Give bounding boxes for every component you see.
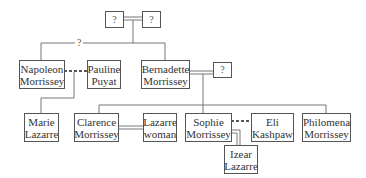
node-izear-lazarre: Izear Lazarre [224, 145, 258, 174]
marriage-line-sophie-izear [231, 130, 240, 145]
node-first-name: Eli [266, 116, 279, 128]
node-last-name: woman [144, 128, 176, 140]
node-clarence-morrissey: Clarence Morrissey [74, 113, 119, 142]
connector-lines [0, 0, 366, 178]
node-last-name: Puyat [91, 75, 116, 87]
node-first-name: Clarence [77, 116, 116, 128]
marriage-line-bernadette [189, 71, 213, 74]
node-sophie-morrissey: Sophie Morrissey [185, 113, 232, 142]
node-last-name: Morrissey [74, 128, 119, 140]
node-last-name: Kashpaw [252, 128, 293, 140]
node-last-name: Lazarre [224, 160, 258, 172]
marriage-line-clarence [118, 126, 143, 129]
family-tree-diagram: ? ? ? Napoleon Morrissey Pauline Puyat B… [0, 0, 366, 178]
node-last-name: Morrissey [304, 128, 349, 140]
node-first-name: Bernadette [142, 63, 190, 75]
node-first-name: Sophie [193, 116, 224, 128]
node-eli-kashpaw: Eli Kashpaw [251, 113, 294, 142]
node-label: ? [220, 64, 224, 76]
node-bernadette-morrissey: Bernadette Morrissey [141, 60, 190, 89]
node-napoleon-morrissey: Napoleon Morrissey [19, 60, 65, 89]
node-first-name: Izear [230, 148, 252, 160]
node-last-name: Morrissey [186, 128, 231, 140]
node-unknown-grandparent-2: ? [142, 11, 161, 28]
uncertain-sibling-label: ? [75, 38, 83, 48]
node-first-name: Napoleon [21, 63, 64, 75]
node-first-name: Lazarre [143, 116, 177, 128]
node-label: ? [149, 14, 153, 26]
node-last-name: Lazarre [25, 128, 59, 140]
node-first-name: Philomena [303, 116, 350, 128]
node-last-name: Morrissey [20, 75, 65, 87]
node-last-name: Morrissey [143, 75, 188, 87]
node-philomena-morrissey: Philomena Morrissey [302, 113, 351, 142]
node-unknown-grandparent-1: ? [105, 11, 124, 28]
node-marie-lazarre: Marie Lazarre [24, 113, 59, 142]
node-lazarre-woman: Lazarre woman [143, 113, 177, 142]
node-bernadette-spouse-unknown: ? [213, 62, 232, 78]
node-first-name: Marie [28, 116, 54, 128]
marriage-line-grandparents [123, 17, 142, 20]
node-label: ? [112, 14, 116, 26]
node-pauline-puyat: Pauline Puyat [87, 60, 121, 89]
node-first-name: Pauline [88, 63, 121, 75]
